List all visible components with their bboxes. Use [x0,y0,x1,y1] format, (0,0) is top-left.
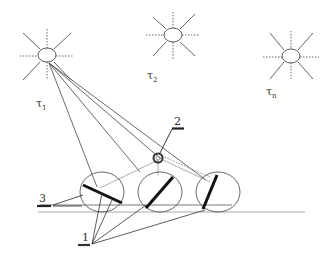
plate-1 [83,185,122,203]
source-n-label: τn [266,86,277,100]
subscript: 1 [42,104,46,112]
source-1-label: τ1 [36,98,47,112]
callout-2-leader [160,129,184,154]
light-source-2-icon [146,12,200,60]
panel-3 [196,172,240,212]
panel-1 [80,172,124,212]
subscript: n [272,92,277,100]
rays-from-source-1 [49,63,206,187]
tilted-plates [83,175,217,209]
subscript: 2 [153,76,157,84]
light-source-n-icon [263,31,319,79]
callout-3-label: 3 [39,193,46,204]
light-source-1-icon [20,29,74,80]
callout-1-leader [78,193,205,245]
callout-2-label: 2 [174,116,181,127]
source-2-label: τ2 [147,70,158,84]
diagram-canvas [0,0,335,255]
plate-2 [146,177,173,208]
callout-1-label: 1 [82,232,89,243]
